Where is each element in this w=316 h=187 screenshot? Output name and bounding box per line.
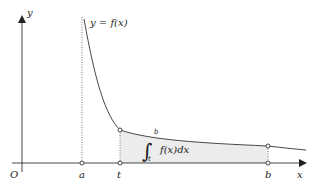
integral-diagram: y x O a t b y = f(x) ∫ b t f(x)dx <box>0 0 316 187</box>
point-a-label: a <box>79 169 85 180</box>
origin-label: O <box>10 169 18 180</box>
point-a-axis <box>80 161 84 165</box>
point-b-curve <box>266 144 270 148</box>
point-t-label: t <box>117 169 122 180</box>
curve-label: y = f(x) <box>89 17 128 28</box>
point-b-axis <box>266 161 270 165</box>
integral-upper-limit: b <box>154 128 159 136</box>
integrand: f(x)dx <box>159 144 190 155</box>
curve-f <box>84 19 306 150</box>
point-t-curve <box>118 128 122 132</box>
y-axis-label: y <box>26 7 33 18</box>
integral-lower-limit: t <box>148 155 151 163</box>
point-b-label: b <box>265 169 271 180</box>
x-axis-label: x <box>297 169 303 180</box>
point-t-axis <box>118 161 122 165</box>
